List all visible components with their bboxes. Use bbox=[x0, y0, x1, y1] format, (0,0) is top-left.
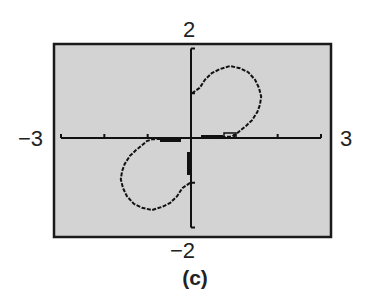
x-max-label: 3 bbox=[340, 128, 352, 150]
x-min-label: −3 bbox=[18, 128, 43, 150]
axis-overlap-bar bbox=[187, 152, 191, 175]
axis-overlap-bar bbox=[160, 138, 181, 142]
plot-background bbox=[54, 44, 331, 237]
y-max-label: 2 bbox=[183, 19, 195, 41]
axis-overlap-bar bbox=[201, 135, 223, 139]
figure-caption: (c) bbox=[12, 266, 366, 290]
y-min-label: −2 bbox=[170, 240, 195, 262]
